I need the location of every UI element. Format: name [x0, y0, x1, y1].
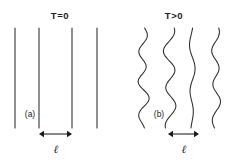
- dimension-arrowhead-right: [194, 131, 199, 137]
- dimension-arrowhead-left: [39, 131, 44, 137]
- flux-line: [138, 28, 149, 128]
- figure-container: T=0 (a) ℓ T>0 (b) ℓ: [0, 0, 227, 163]
- panel-b-lines: [138, 28, 220, 128]
- figure-canvas: T=0 (a) ℓ T>0 (b) ℓ: [0, 0, 227, 163]
- panel-b-title: T>0: [165, 10, 183, 21]
- panel-a: T=0 (a) ℓ: [15, 10, 97, 155]
- panel-a-dimension-arrow: [39, 131, 72, 137]
- panel-b-length-label: ℓ: [182, 143, 187, 155]
- dimension-arrowhead-right: [67, 131, 72, 137]
- panel-a-length-label: ℓ: [54, 143, 59, 155]
- panel-b: T>0 (b) ℓ: [138, 10, 220, 155]
- panel-b-tag: (b): [154, 109, 165, 119]
- flux-line: [190, 28, 196, 128]
- dimension-arrowhead-left: [168, 131, 173, 137]
- panel-a-title: T=0: [51, 10, 69, 21]
- panel-b-dimension-arrow: [168, 131, 199, 137]
- panel-a-tag: (a): [25, 109, 36, 119]
- flux-line: [212, 28, 221, 128]
- flux-line: [163, 28, 175, 128]
